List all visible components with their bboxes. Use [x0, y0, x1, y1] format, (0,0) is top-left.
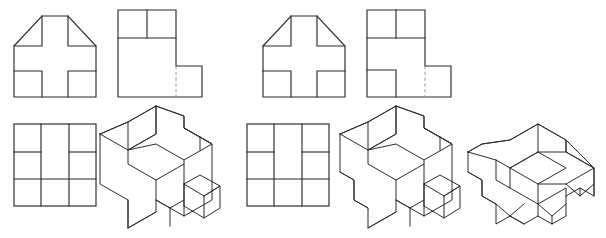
- iso-top-plateau: [368, 106, 452, 160]
- front-outline: [14, 16, 96, 97]
- side-lower-left-cell: [367, 70, 396, 97]
- iso-cube-front: [184, 184, 204, 218]
- iso-lower-left-notch: [340, 172, 368, 208]
- isob-top-left-face: [468, 124, 538, 168]
- plus-cutout-lower-left: [14, 71, 42, 97]
- group-right: [247, 10, 594, 228]
- top-outline: [14, 124, 96, 206]
- isob-left-step: [468, 172, 496, 204]
- iso-notch-right-top: [184, 128, 212, 144]
- view-iso-left[interactable]: [100, 106, 220, 228]
- iso-recess-left-wall: [368, 150, 424, 180]
- plus-cutout-lower-left: [263, 71, 291, 97]
- view-side-left[interactable]: [118, 10, 202, 97]
- view-top-left[interactable]: [14, 124, 96, 206]
- iso-cube-top: [184, 175, 220, 196]
- isob-front-notch-right: [538, 204, 566, 216]
- group-left: [14, 10, 220, 228]
- drawing-sheet: [0, 0, 606, 238]
- iso-cube-side: [204, 186, 220, 218]
- iso-recess-left-wall: [128, 150, 184, 180]
- iso-bottom-front: [128, 212, 156, 228]
- isob-ramp-top-edge: [538, 124, 566, 152]
- isob-outer-silhouette: [468, 124, 594, 224]
- front-outline: [263, 16, 345, 97]
- view-side-right[interactable]: [367, 10, 451, 97]
- isob-front-notch-left-b: [510, 216, 524, 224]
- iso-cube-top: [424, 175, 460, 196]
- plus-cutout-lower-right: [317, 71, 345, 97]
- iso-top-plateau: [128, 106, 212, 160]
- side-outline: [367, 10, 451, 97]
- iso-cube-front: [424, 184, 444, 218]
- view-front-left[interactable]: [14, 16, 96, 97]
- view-iso-right-a[interactable]: [340, 106, 460, 228]
- side-outline: [118, 10, 202, 97]
- view-top-right[interactable]: [247, 124, 329, 206]
- iso-cube-side: [444, 186, 460, 218]
- isob-ramp-face: [510, 152, 566, 184]
- iso-bottom-front: [368, 212, 396, 228]
- plus-cutout-lower-right: [68, 71, 96, 97]
- isob-front-notch-left: [496, 204, 524, 216]
- view-front-right[interactable]: [263, 16, 345, 97]
- drawing-canvas: [0, 0, 606, 238]
- top-outline: [247, 124, 329, 206]
- view-iso-right-b[interactable]: [468, 124, 594, 224]
- iso-notch-right-top: [424, 128, 452, 144]
- iso-front-notch: [396, 184, 424, 208]
- iso-front-notch: [156, 184, 184, 208]
